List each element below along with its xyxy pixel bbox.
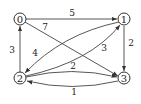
node-2: 2 <box>14 72 26 84</box>
edge-label-0-1: 5 <box>69 8 75 18</box>
edge-label-1-2: 4 <box>32 48 38 58</box>
node-0: 0 <box>14 13 26 25</box>
node-label-1: 1 <box>121 14 127 25</box>
edge-label-2-0: 3 <box>9 45 15 55</box>
edge-0-1: 5 <box>26 8 117 19</box>
edge-label-1-3: 2 <box>128 38 134 48</box>
edge-label-3-2: 1 <box>71 87 77 97</box>
edge-2-3: 2 <box>26 61 117 77</box>
node-3: 3 <box>118 72 130 84</box>
graph-diagram: 5 7 4 3 3 2 2 1 0 1 <box>0 0 141 104</box>
edge-label-0-3: 7 <box>42 22 48 32</box>
edge-1-3: 2 <box>124 26 134 71</box>
node-label-2: 2 <box>17 73 23 84</box>
node-1: 1 <box>118 13 130 25</box>
edge-label-2-1: 3 <box>101 43 107 53</box>
node-label-0: 0 <box>17 14 23 25</box>
edge-2-0: 3 <box>9 26 20 72</box>
node-label-3: 3 <box>121 73 127 84</box>
edge-3-2: 1 <box>27 81 118 97</box>
edge-label-2-3: 2 <box>70 61 76 71</box>
